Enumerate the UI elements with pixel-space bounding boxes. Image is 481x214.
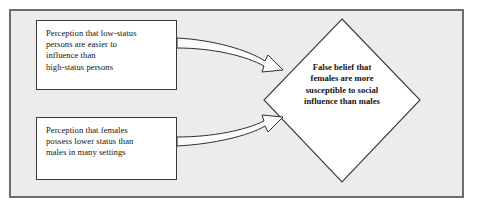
node-outcome-line-1: False belief that — [278, 62, 406, 73]
node-cause-1-line-2: persons are easier to — [46, 39, 168, 50]
node-cause-1: Perception that low-status persons are e… — [36, 20, 177, 90]
arrow-cause1-to-outcome — [177, 38, 283, 72]
node-cause-2-line-2: possess lower status than — [46, 136, 168, 147]
node-outcome-line-4: influence than males — [278, 96, 406, 107]
node-outcome-line-2: females are more — [278, 73, 406, 84]
node-outcome-label: False belief that females are more susce… — [278, 62, 406, 108]
node-outcome-line-3: susceptible to social — [278, 85, 406, 96]
diagram-figure: Perception that low-status persons are e… — [0, 0, 481, 214]
arrow-cause2-to-outcome — [177, 115, 283, 146]
node-cause-2: Perception that females possess lower st… — [36, 117, 177, 180]
node-cause-1-line-3: influence than — [46, 50, 168, 61]
node-cause-1-line-4: high-status persons — [46, 62, 168, 73]
node-cause-2-line-1: Perception that females — [46, 125, 168, 136]
node-cause-2-line-3: males in many settings — [46, 147, 168, 158]
node-cause-1-line-1: Perception that low-status — [46, 28, 168, 39]
